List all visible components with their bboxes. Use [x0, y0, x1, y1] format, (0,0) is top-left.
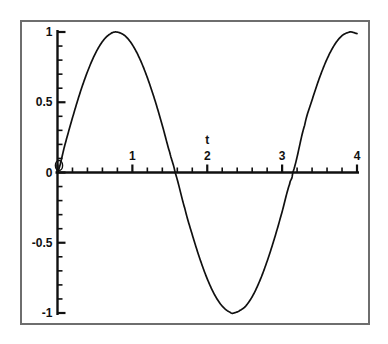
x-axis-tick-label-2: 2	[204, 150, 211, 162]
plot-svg	[0, 0, 388, 344]
y-axis-tick-label-0: 0	[46, 167, 53, 179]
y-axis-tick-label-1: 1	[46, 26, 53, 38]
y-axis-tick-label-0_5: 0.5	[36, 96, 53, 108]
x-axis-tick-label-4: 4	[354, 150, 361, 162]
figure-canvas: -1-0.500.511234 t	[0, 0, 388, 344]
x-axis-title: t	[205, 134, 209, 146]
x-axis-ticks	[58, 165, 358, 173]
y-axis-tick-label-neg1: -1	[42, 307, 53, 319]
y-axis-tick-label-neg0_5: -0.5	[32, 237, 53, 249]
y-axis-ticks	[58, 32, 66, 313]
x-axis-tick-label-1: 1	[129, 150, 136, 162]
x-axis-tick-label-3: 3	[279, 150, 286, 162]
axes-group	[56, 30, 360, 315]
